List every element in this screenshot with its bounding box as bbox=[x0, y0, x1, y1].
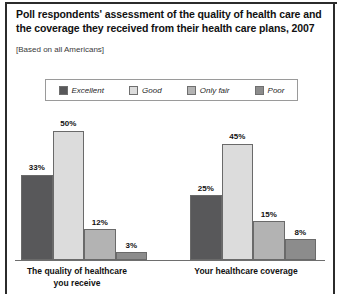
bar-slot: 33% bbox=[21, 106, 53, 260]
bar-value-label: 3% bbox=[125, 241, 137, 251]
bar-slot: 8% bbox=[285, 106, 317, 260]
bar-value-label: 33% bbox=[29, 163, 45, 173]
chart-header: Poll respondents' assessment of the qual… bbox=[16, 8, 328, 55]
bar-slot: 45% bbox=[222, 106, 254, 260]
bar-value-label: 15% bbox=[261, 210, 277, 220]
category-label-coverage: Your healthcare coverage bbox=[181, 266, 311, 278]
legend-item-excellent[interactable]: Excellent bbox=[59, 86, 104, 95]
bar-slot: 3% bbox=[116, 106, 148, 260]
chart-title: Poll respondents' assessment of the qual… bbox=[16, 8, 328, 35]
legend-label-good: Good bbox=[142, 86, 162, 95]
chart-legend: Excellent Good Only fair Poor bbox=[45, 79, 298, 101]
chart-subtitle: [Based on all Americans] bbox=[16, 44, 328, 55]
bar-value-label: 8% bbox=[294, 228, 306, 238]
category-label-line-1: The quality of healthcare bbox=[27, 266, 127, 276]
bar[interactable] bbox=[116, 252, 148, 260]
legend-swatch-icon-only-fair bbox=[187, 86, 196, 95]
bar[interactable] bbox=[84, 229, 116, 260]
bar-slot: 15% bbox=[253, 106, 285, 260]
bar[interactable] bbox=[21, 175, 53, 260]
category-label-line-2: you receive bbox=[54, 278, 101, 288]
frame-rule-top bbox=[5, 2, 337, 4]
axis-baseline bbox=[15, 260, 325, 261]
bar-slot: 12% bbox=[84, 106, 116, 260]
legend-item-only-fair[interactable]: Only fair bbox=[187, 86, 230, 95]
bar-value-label: 12% bbox=[92, 218, 108, 228]
legend-swatch-icon-poor bbox=[255, 86, 264, 95]
bar[interactable] bbox=[253, 221, 285, 260]
bar-slot: 25% bbox=[190, 106, 222, 260]
chart-figure: Poll respondents' assessment of the qual… bbox=[0, 0, 342, 299]
bar[interactable] bbox=[53, 131, 85, 260]
bar-value-label: 50% bbox=[60, 119, 76, 129]
category-label-line-1: Your healthcare coverage bbox=[194, 266, 297, 276]
legend-label-only-fair: Only fair bbox=[200, 86, 230, 95]
legend-label-poor: Poor bbox=[268, 86, 285, 95]
bar-value-label: 45% bbox=[229, 132, 245, 142]
bar-group-coverage: 25% 45% 15% 8% bbox=[190, 106, 316, 260]
legend-item-poor[interactable]: Poor bbox=[255, 86, 285, 95]
bar-slot: 50% bbox=[53, 106, 85, 260]
chart-title-line-1: Poll respondents' assessment of the qual… bbox=[16, 8, 322, 20]
legend-swatch-icon-good bbox=[129, 86, 138, 95]
bar[interactable] bbox=[285, 239, 317, 260]
legend-swatch-icon-excellent bbox=[59, 86, 68, 95]
plot-area: 33% 50% 12% 3% 25% 45% bbox=[7, 104, 333, 262]
bar-value-label: 25% bbox=[198, 184, 214, 194]
frame-rule-right bbox=[333, 2, 335, 294]
legend-label-excellent: Excellent bbox=[72, 86, 104, 95]
category-label-quality: The quality of healthcare you receive bbox=[12, 266, 142, 289]
chart-title-line-2: the coverage they received from their he… bbox=[16, 22, 315, 34]
legend-item-good[interactable]: Good bbox=[129, 86, 162, 95]
bar[interactable] bbox=[190, 195, 222, 260]
bar-group-quality: 33% 50% 12% 3% bbox=[21, 106, 147, 260]
bar[interactable] bbox=[222, 144, 254, 260]
